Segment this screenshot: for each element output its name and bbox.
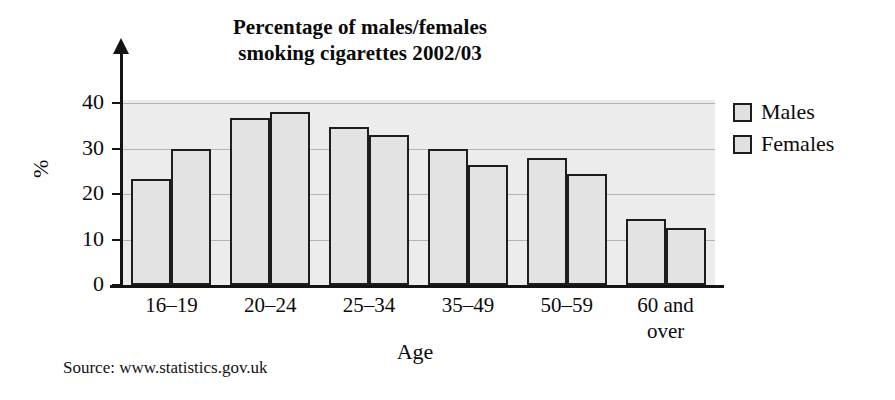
- y-tick-10: [112, 239, 122, 241]
- legend-label-males: Males: [761, 101, 815, 123]
- y-tick-40: [112, 102, 122, 104]
- chart-title-line-2: smoking cigarettes 2002/03: [150, 40, 570, 66]
- bar-females-5: [567, 174, 607, 285]
- y-tick-label-20: 20: [58, 182, 104, 204]
- x-axis-title: Age: [355, 340, 475, 364]
- bar-females-2: [270, 112, 310, 285]
- legend: Males Females: [733, 98, 834, 162]
- x-tick-label-2: 20–24: [215, 292, 326, 318]
- y-tick-0: [112, 284, 122, 286]
- y-tick-label-30: 30: [58, 137, 104, 159]
- bar-males-3: [329, 127, 369, 285]
- y-axis-arrow-icon: [113, 38, 129, 54]
- source-note: Source: www.statistics.gov.uk: [63, 358, 268, 378]
- y-axis-title: %: [30, 160, 52, 178]
- legend-item-males: Males: [733, 98, 834, 126]
- x-tick-label-4: 35–49: [413, 292, 524, 318]
- bar-males-1: [131, 179, 171, 285]
- y-tick-20: [112, 193, 122, 195]
- legend-label-females: Females: [761, 133, 834, 155]
- bar-males-2: [230, 118, 270, 285]
- bar-females-3: [369, 135, 409, 285]
- chart-title: Percentage of males/females smoking ciga…: [150, 14, 570, 66]
- y-axis-line: [120, 50, 123, 287]
- bar-males-5: [527, 158, 567, 285]
- chart-title-line-1: Percentage of males/females: [150, 14, 570, 40]
- bar-females-6: [666, 228, 706, 285]
- y-tick-label-0: 0: [58, 273, 104, 295]
- x-tick-label-1: 16–19: [116, 292, 227, 318]
- x-tick-label-3: 25–34: [314, 292, 425, 318]
- x-tick-label-6: 60 and over: [610, 292, 721, 344]
- bar-females-1: [171, 149, 211, 286]
- legend-item-females: Females: [733, 130, 834, 158]
- y-tick-label-10: 10: [58, 228, 104, 250]
- bar-females-4: [468, 165, 508, 285]
- smoking-percentage-bar-chart: Percentage of males/females smoking ciga…: [0, 0, 895, 400]
- y-tick-30: [112, 148, 122, 150]
- x-tick-label-5: 50–59: [511, 292, 622, 318]
- y-tick-label-40: 40: [58, 91, 104, 113]
- x-axis-line: [110, 285, 724, 288]
- bar-males-6: [626, 219, 666, 285]
- legend-swatch-females-icon: [733, 135, 752, 154]
- gridline-40: [122, 103, 715, 104]
- legend-swatch-males-icon: [733, 103, 752, 122]
- bar-males-4: [428, 149, 468, 285]
